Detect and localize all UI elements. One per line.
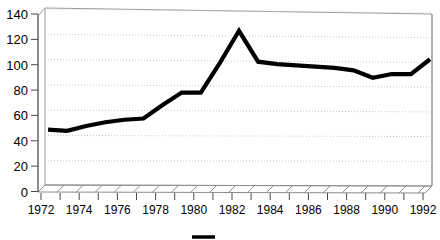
y-tick-label: 140 — [6, 7, 28, 22]
x-tick-label: 1972 — [28, 203, 55, 217]
y-tick-label: 80 — [14, 83, 28, 98]
chart-container: 140 120 100 80 60 40 20 0 19721974197619… — [0, 0, 440, 240]
y-tick-label: 60 — [14, 108, 28, 123]
line-chart: 140 120 100 80 60 40 20 0 19721974197619… — [0, 0, 440, 240]
x-tick-label: 1982 — [219, 203, 246, 217]
y-tick-label: 20 — [14, 159, 28, 174]
x-axis-ticks — [41, 193, 423, 200]
x-tick-label: 1978 — [142, 203, 169, 217]
y-tick-label: 100 — [6, 58, 28, 73]
x-tick-label: 1990 — [371, 203, 398, 217]
y-tick-label: 120 — [6, 32, 28, 47]
data-series-line — [48, 31, 430, 131]
left-wall — [38, 8, 45, 192]
x-tick-label: 1984 — [257, 203, 284, 217]
y-axis-labels: 140 120 100 80 60 40 20 0 — [6, 7, 28, 200]
y-tick-label: 40 — [14, 134, 28, 149]
x-axis-labels: 1972197419761978198019821984198619881990… — [28, 203, 437, 217]
x-tick-label: 1980 — [180, 203, 207, 217]
x-tick-label: 1986 — [295, 203, 322, 217]
x-tick-label: 1988 — [333, 203, 360, 217]
y-axis-ticks — [31, 14, 38, 192]
x-tick-label: 1976 — [104, 203, 131, 217]
y-tick-label: 0 — [21, 185, 28, 200]
x-tick-label: 1974 — [66, 203, 93, 217]
x-tick-label: 1992 — [410, 203, 437, 217]
floor-plane — [38, 185, 432, 193]
